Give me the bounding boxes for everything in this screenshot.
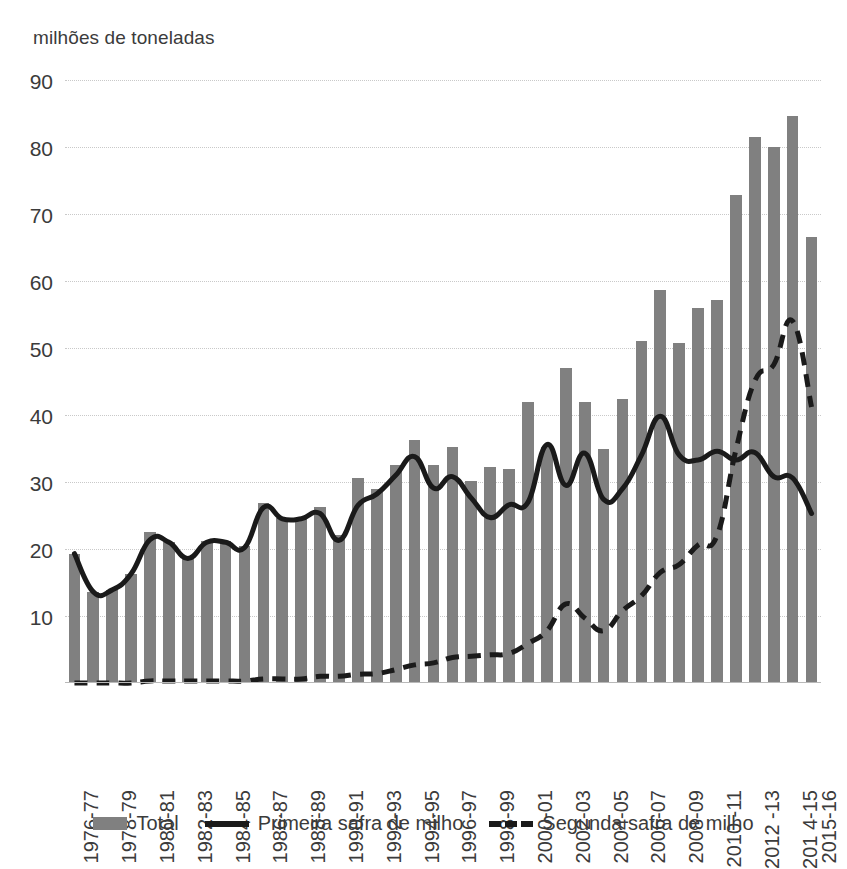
- y-axis-tick-label: 70: [30, 205, 53, 226]
- y-axis-tick-label: 50: [30, 339, 53, 360]
- dashed-line-swatch-icon: [489, 821, 533, 827]
- primeira-safra-line: [74, 416, 811, 595]
- legend-label-primeira-safra: Primeira safra de milho: [258, 812, 464, 835]
- segunda-safra-line: [74, 320, 811, 683]
- y-axis-tick-label: 90: [30, 71, 53, 92]
- y-axis-tick-label: 20: [30, 540, 53, 561]
- y-axis-tick-label: 80: [30, 138, 53, 159]
- y-axis-tick-label: 40: [30, 406, 53, 427]
- y-axis-tick-label: 60: [30, 272, 53, 293]
- y-axis-tick-label: 10: [30, 607, 53, 628]
- legend-item-total: Total: [93, 812, 178, 835]
- y-axis-unit-caption: milhões de toneladas: [33, 27, 215, 49]
- line-series-group: [65, 80, 821, 683]
- chart-legend: Total Primeira safra de milho Segunda sa…: [0, 812, 847, 835]
- y-axis-tick-label: 30: [30, 473, 53, 494]
- legend-label-segunda-safra: Segunda safra de milho: [542, 812, 753, 835]
- solid-line-swatch-icon: [205, 821, 249, 827]
- legend-item-primeira-safra: Primeira safra de milho: [205, 812, 464, 835]
- plot-area: 102030405060708090: [65, 80, 821, 683]
- x-axis-tick-labels: 1976-771978-791980-811982-831984-851986-…: [65, 686, 821, 796]
- legend-label-total: Total: [136, 812, 178, 835]
- legend-item-segunda-safra: Segunda safra de milho: [489, 812, 753, 835]
- bar-swatch-icon: [93, 817, 127, 830]
- x-axis-baseline: [65, 682, 821, 683]
